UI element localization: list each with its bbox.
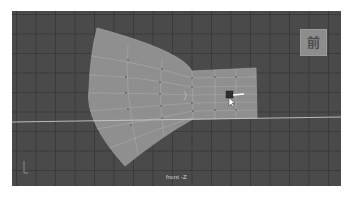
axis-indicator-icon: [21, 159, 29, 175]
view-cube-icon[interactable]: 前: [300, 29, 327, 56]
camera-label: front -Z: [12, 174, 341, 180]
viewport-panel[interactable]: 前 front -Z: [12, 11, 341, 186]
scene-canvas[interactable]: [12, 11, 341, 186]
